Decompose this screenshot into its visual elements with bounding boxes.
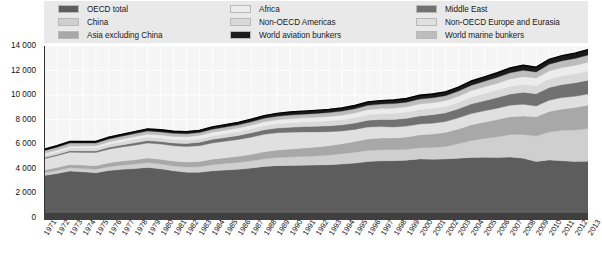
x-tick-label: 1972 [56, 218, 72, 237]
y-tick-label: 6 000 [16, 140, 37, 148]
legend-item-asia-excluding-china: Asia excluding China [58, 30, 216, 41]
legend-item-non-oecd-americas: Non-OECD Americas [230, 17, 402, 28]
legend-item-oecd-total: OECD total [58, 4, 216, 15]
y-tick-label: 4 000 [16, 165, 37, 173]
legend-swatch-asia-excluding-china [58, 31, 79, 39]
y-tick-label: 8 000 [16, 116, 37, 124]
legend-swatch-world-aviation-bunkers [230, 31, 251, 39]
y-tick-label: 10 000 [11, 91, 36, 99]
plot-area [44, 46, 588, 218]
x-tick-label: 1976 [107, 218, 123, 237]
legend-column-1: OECD total China Asia excluding China [44, 1, 216, 43]
legend-item-world-marine-bunkers: World marine bunkers [416, 30, 588, 41]
legend-swatch-middle-east [416, 5, 437, 13]
legend-swatch-china [58, 18, 79, 26]
legend-swatch-oecd-total [58, 5, 79, 13]
x-tick-label: 1993 [328, 218, 344, 237]
legend-swatch-non-oecd-americas [230, 18, 251, 26]
legend-label-asia-excluding-china: Asia excluding China [87, 31, 162, 40]
x-tick-label: 1978 [133, 218, 149, 237]
x-tick-label: 2013 [587, 218, 602, 237]
chart-legend: OECD total China Asia excluding China Af… [44, 1, 588, 43]
x-tick-label: 1997 [379, 218, 395, 237]
y-tick-label: 2 000 [16, 189, 37, 197]
x-tick-label: 1974 [81, 218, 97, 237]
legend-column-2: Africa Non-OECD Americas World aviation … [216, 1, 402, 43]
legend-item-china: China [58, 17, 216, 28]
stacked-area-svg [44, 46, 588, 218]
legend-item-africa: Africa [230, 4, 402, 15]
legend-item-non-oecd-europe-and-eurasia: Non-OECD Europe and Eurasia [416, 17, 588, 28]
legend-item-middle-east: Middle East [416, 4, 588, 15]
x-tick-label: 1999 [405, 218, 421, 237]
legend-label-africa: Africa [259, 5, 280, 14]
x-tick-label: 1973 [69, 218, 85, 237]
legend-label-world-marine-bunkers: World marine bunkers [445, 31, 524, 40]
x-tick-label: 1994 [341, 218, 357, 237]
x-tick-label: 1975 [94, 218, 110, 237]
legend-item-world-aviation-bunkers: World aviation bunkers [230, 30, 402, 41]
x-axis-labels: 1971197219731974197519761977197819791980… [44, 219, 588, 259]
legend-column-3: Middle East Non-OECD Europe and Eurasia … [402, 1, 588, 43]
legend-label-oecd-total: OECD total [87, 5, 128, 14]
y-tick-label: 12 000 [11, 67, 36, 75]
x-tick-label: 1977 [120, 218, 136, 237]
legend-label-world-aviation-bunkers: World aviation bunkers [259, 31, 341, 40]
y-axis-labels: 02 0004 0006 0008 00010 00012 00014 000 [0, 46, 42, 218]
legend-label-china: China [87, 18, 108, 27]
x-tick-label: 1998 [392, 218, 408, 237]
legend-swatch-non-oecd-europe-and-eurasia [416, 18, 437, 26]
legend-label-non-oecd-europe-and-eurasia: Non-OECD Europe and Eurasia [445, 18, 560, 27]
legend-swatch-world-marine-bunkers [416, 31, 437, 39]
legend-label-middle-east: Middle East [445, 5, 487, 14]
x-tick-label: 1996 [366, 218, 382, 237]
x-tick-label: 1995 [353, 218, 369, 237]
y-tick-label: 0 [31, 214, 36, 222]
legend-swatch-africa [230, 5, 251, 13]
y-tick-label: 14 000 [11, 42, 36, 50]
legend-label-non-oecd-americas: Non-OECD Americas [259, 18, 336, 27]
